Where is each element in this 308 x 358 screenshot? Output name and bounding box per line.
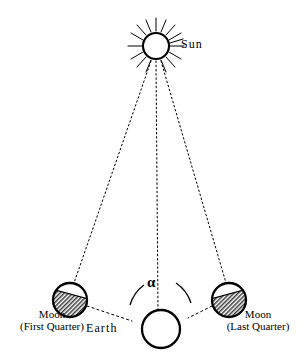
moon-left-label-line2: (First Quarter) [6,321,98,333]
sun-ray-icon-6 [169,52,181,59]
moon-right-label-line1: Moon [245,308,271,320]
sun-ray-icon-10 [137,57,146,67]
sun-to-moon-left-line [74,61,151,283]
astronomy-diagram: Sun Earth α Moon (First Quarter) Moon (L… [0,0,308,358]
sun-ray-icon-2 [161,20,166,32]
sun-ray-icon-9 [146,60,151,72]
moon-left-label: Moon (First Quarter) [6,309,98,332]
angle-arc [130,283,191,305]
sun-ray-icon-3 [166,25,175,35]
sun-ray-icon-14 [137,25,146,35]
moon-right-label-line2: (Last Quarter) [210,321,306,333]
sun-ray-icon-4 [169,33,181,40]
moon-left-label-line1: Moon [39,308,65,320]
moon-right-to-earth-line [188,306,212,318]
sun-ray-icon-13 [131,33,143,40]
sun-ray-icon-11 [131,52,143,59]
moon-right-label: Moon (Last Quarter) [210,309,306,332]
sun-label: Sun [181,38,203,51]
diagram-canvas [0,0,308,358]
sun-ray-icon-15 [146,20,151,32]
sun-body [143,33,169,59]
angle-arc-left-segment [130,285,144,305]
sun-ray-icon-7 [166,57,175,67]
sun-ray-lines [74,61,226,309]
sun-to-earth-line [156,61,158,309]
sun-to-moon-right-line [161,61,226,283]
angle-alpha-label: α [147,275,155,291]
earth-body [142,310,180,348]
angle-arc-right-segment [176,283,191,303]
